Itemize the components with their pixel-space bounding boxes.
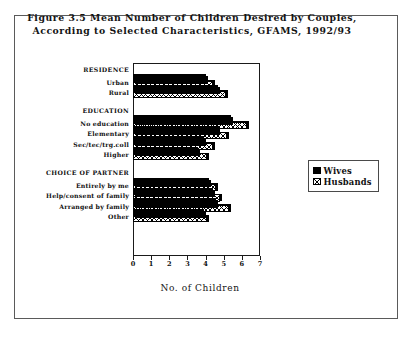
- x-axis-tick-label: 2: [163, 260, 175, 268]
- group-title: EDUCATION: [82, 107, 129, 114]
- category-label: Arranged by family: [59, 202, 129, 212]
- x-axis-tick-label: 7: [254, 260, 266, 268]
- bar-wives: [133, 74, 206, 81]
- x-axis-tick-label: 1: [145, 260, 157, 268]
- chart-plot-area: RESIDENCEUrbanRuralEDUCATIONNo education…: [133, 63, 260, 256]
- bar-row: Other: [133, 212, 260, 222]
- bar-wives: [133, 178, 209, 185]
- crosshatch-square-icon: [313, 178, 321, 186]
- bar-wives: [133, 147, 198, 154]
- figure-title-line-1: Figure 3.5 Mean Number of Children Desir…: [27, 12, 357, 23]
- category-label: No education: [80, 119, 129, 129]
- figure-title: Figure 3.5 Mean Number of Children Desir…: [20, 12, 364, 37]
- solid-black-square-icon: [313, 167, 321, 175]
- bar-wives: [133, 85, 218, 92]
- bar-wives: [133, 115, 231, 122]
- bar-wives: [133, 136, 204, 143]
- legend-label-wives: Wives: [324, 166, 352, 176]
- x-axis-tick-label: 6: [236, 260, 248, 268]
- bar-row: Higher: [133, 150, 260, 160]
- x-axis-tick-label: 3: [181, 260, 193, 268]
- bar-wives: [133, 126, 218, 133]
- bar-wives: [133, 188, 213, 195]
- x-axis-title: No. of Children: [110, 283, 290, 293]
- group-title: RESIDENCE: [83, 66, 129, 73]
- category-label: Entirely by me: [76, 181, 129, 191]
- category-label: Rural: [109, 88, 129, 98]
- group-title: CHOICE OF PARTNER: [46, 169, 129, 176]
- category-label: Sec/tec/trg.coll: [73, 140, 129, 150]
- x-axis: 01234567: [133, 256, 260, 280]
- bar-wives: [133, 198, 216, 205]
- bar-row: Rural: [133, 88, 260, 98]
- legend-item-wives: Wives: [313, 165, 372, 176]
- x-axis-tick-label: 4: [200, 260, 212, 268]
- figure-title-line-2: According to Selected Characteristics, G…: [20, 25, 364, 38]
- legend-label-husbands: Husbands: [324, 177, 372, 187]
- category-label: Help/consent of family: [46, 191, 129, 201]
- category-label: Urban: [107, 78, 130, 88]
- x-axis-tick-label: 5: [218, 260, 230, 268]
- category-label: Elementary: [87, 129, 129, 139]
- category-label: Higher: [104, 150, 129, 160]
- legend-item-husbands: Husbands: [313, 176, 372, 187]
- category-label: Other: [108, 212, 129, 222]
- chart-legend: Wives Husbands: [308, 160, 379, 192]
- bar-wives: [133, 209, 204, 216]
- x-axis-tick-label: 0: [127, 260, 139, 268]
